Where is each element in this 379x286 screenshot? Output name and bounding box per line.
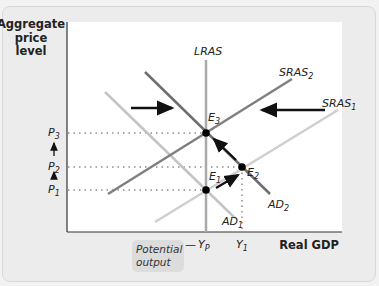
e2-to-e3-arrow — [214, 139, 236, 160]
sras1-label: SRAS1 — [322, 97, 356, 112]
sras2-label: SRAS2 — [279, 66, 313, 81]
ad1-label: AD1 — [221, 215, 243, 230]
e1-label: E1 — [209, 170, 221, 185]
point-e2 — [238, 163, 246, 171]
sras2-curve — [108, 79, 292, 194]
as-ad-diagram: Aggregate price level Real GDP LRAS SRAS… — [0, 0, 379, 286]
p3-label: P3 — [48, 126, 60, 141]
e3-label: E3 — [208, 111, 220, 126]
potential-output-line2: output — [132, 256, 184, 269]
point-e1 — [202, 186, 210, 194]
y-axis-title-line1: Aggregate — [0, 17, 65, 31]
ad2-label: AD2 — [267, 198, 289, 213]
potential-output-tag: Potential output — [132, 240, 184, 272]
x-axis-title: Real GDP — [279, 238, 339, 252]
point-e3 — [202, 129, 210, 137]
potential-dash: — — [185, 238, 196, 251]
y1-label: Y1 — [236, 238, 248, 253]
y-axis-title-line2: price — [15, 31, 48, 45]
p1-label: P1 — [48, 183, 60, 198]
lras-label: LRAS — [194, 45, 222, 58]
potential-output-line1: Potential — [132, 240, 184, 256]
y-axis-title-line3: level — [16, 44, 47, 58]
yp-label: YP — [198, 238, 210, 253]
e2-label: E2 — [247, 166, 259, 181]
p2-label: P2 — [48, 160, 60, 175]
